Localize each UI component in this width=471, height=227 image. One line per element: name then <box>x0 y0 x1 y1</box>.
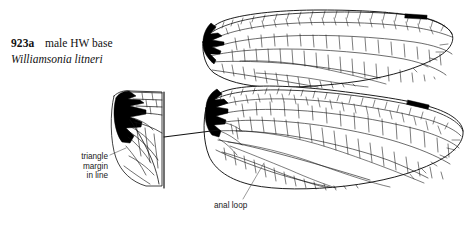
forewing-illustration <box>203 10 453 88</box>
hindwing-base-inset-illustration <box>111 91 164 188</box>
forewing-outline <box>203 10 453 87</box>
hindwing-illustration <box>204 86 463 190</box>
wing-illustrations <box>0 0 471 227</box>
figure-plate: 923a male HW base Williamsonia litneri t… <box>0 0 471 227</box>
